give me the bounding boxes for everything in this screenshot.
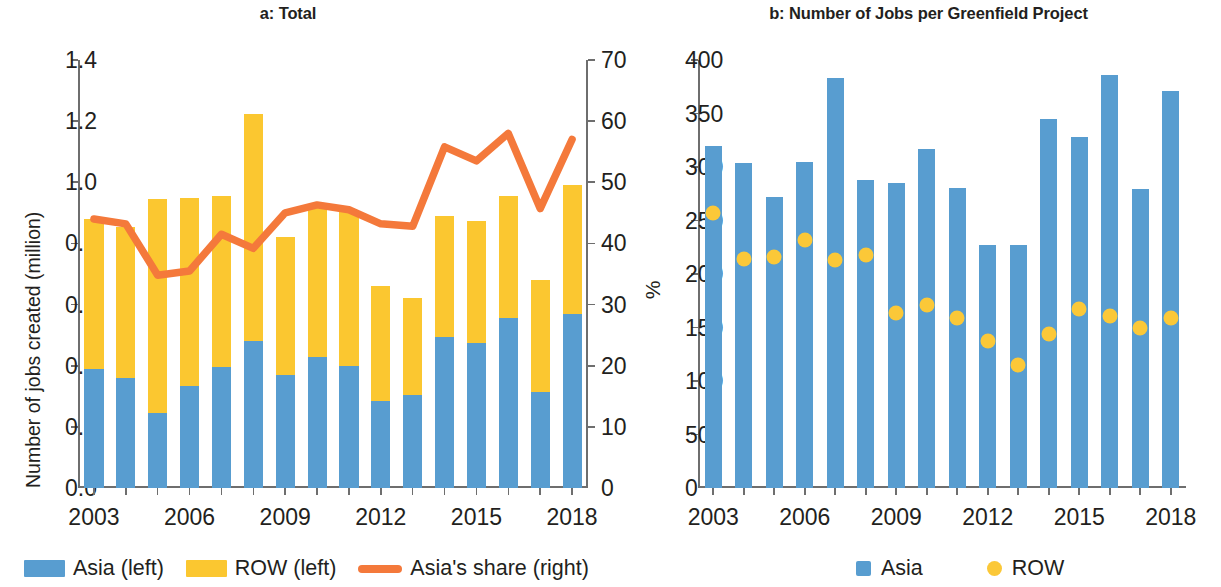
panel-a-bar-segment-row [435, 216, 454, 337]
square-swatch-icon [24, 560, 65, 577]
panel-b-legend-item: ROW [987, 556, 1065, 581]
panel-b-row-dot [767, 249, 782, 264]
square-swatch-icon [856, 561, 871, 576]
panel-a-bar-segment-row [563, 185, 582, 313]
panel-b-row-dot [1102, 308, 1117, 323]
panel-a-bar-segment-asia [499, 318, 518, 488]
panel-b-bar [979, 245, 996, 488]
panel-a-bar [148, 199, 167, 488]
panel-b-x-tick-label: 2015 [1054, 506, 1105, 529]
panel-a-bar [244, 114, 263, 489]
panel-b-x-tick [1139, 488, 1141, 495]
panel-b-y-tick-label: 350 [685, 102, 1173, 125]
panel-a-bar [435, 216, 454, 488]
panel-a-bar [499, 196, 518, 488]
panel-a-bar [467, 221, 486, 489]
panel-a-left-tick-label: 1.4 [65, 49, 575, 72]
panel-a-bar [212, 196, 231, 488]
panel-b-bar [918, 149, 935, 488]
panel-b-legend-label: ROW [1012, 556, 1065, 581]
panel-b-x-tick [865, 488, 867, 495]
panel-a-x-tick-label: 2015 [451, 506, 502, 529]
panel-a-bar-segment-row [499, 196, 518, 318]
panel-a-bar-segment-asia [276, 375, 295, 488]
panel-a-bar [308, 208, 327, 488]
panel-a-right-axis [586, 60, 588, 488]
panel-a-bar-segment-row [148, 199, 167, 413]
panel-b-row-dot [1163, 310, 1178, 325]
panel-b-bar [1132, 189, 1149, 488]
panel-a-plot-area: 0.00.20.40.60.81.01.21.40102030405060702… [78, 60, 588, 488]
square-swatch-icon [186, 560, 227, 577]
panel-b-x-tick [804, 488, 806, 495]
panel-a-x-tick-label: 2006 [164, 506, 215, 529]
panel-a-right-tick [588, 304, 595, 306]
panel-a-left-tick-label: 1.2 [65, 110, 575, 133]
panel-a-x-tick [253, 488, 255, 495]
panel-a-x-tick [508, 488, 510, 495]
panel-a-x-tick [412, 488, 414, 495]
panel-b-x-tick [773, 488, 775, 495]
panel-b-row-dot [706, 206, 721, 221]
panel-b-x-tick [743, 488, 745, 495]
panel-b-x-tick [895, 488, 897, 495]
panel-a-legend: Asia (left)ROW (left)Asia's share (right… [24, 556, 589, 581]
panel-a-legend-label: ROW (left) [235, 556, 337, 581]
panel-a-x-tick-label: 2012 [355, 506, 406, 529]
panel-b-row-dot [1011, 357, 1026, 372]
panel-b-bar [827, 78, 844, 488]
panel-a-bar-segment-asia [531, 392, 550, 488]
panel-b-row-dot [919, 298, 934, 313]
panel-a-bar-segment-asia [435, 337, 454, 488]
panel-a-right-tick [588, 59, 595, 61]
panel-a-total: a: Total Number of jobs created (million… [0, 0, 620, 587]
panel-b-x-tick-label: 2012 [962, 506, 1013, 529]
panel-b-x-tick-label: 2006 [779, 506, 830, 529]
panel-b-x-tick [834, 488, 836, 495]
panel-a-x-tick [444, 488, 446, 495]
panel-a-bar-segment-asia [403, 395, 422, 488]
panel-b-row-dot [950, 310, 965, 325]
panel-a-bar [371, 286, 390, 488]
panel-a-x-tick [476, 488, 478, 495]
panel-b-bar [888, 183, 905, 488]
panel-a-x-tick [571, 488, 573, 495]
panel-b-row-dot [797, 232, 812, 247]
panel-b-x-tick-label: 2009 [871, 506, 922, 529]
panel-a-bar-segment-asia [116, 378, 135, 488]
panel-a-bar [116, 227, 135, 488]
panel-a-bar-segment-row [403, 298, 422, 394]
panel-b-x-tick [1048, 488, 1050, 495]
panel-a-y-axis-label: Number of jobs created (million) [22, 212, 45, 488]
panel-b-row-dot [889, 305, 904, 320]
panel-b-bar [735, 163, 752, 488]
panel-a-x-tick [284, 488, 286, 495]
panel-b-bar [1101, 75, 1118, 488]
panel-a-right-tick [588, 181, 595, 183]
panel-a-bar-segment-row [531, 280, 550, 392]
panel-a-bar-segment-row [244, 114, 263, 342]
panel-b-bar [857, 180, 874, 488]
panel-b-legend: AsiaROW [856, 556, 1064, 581]
panel-b-x-tick-label: 2003 [688, 506, 739, 529]
panel-b-x-tick [956, 488, 958, 495]
panel-b-legend-label: Asia [881, 556, 923, 581]
panel-a-bar [339, 210, 358, 488]
panel-a-bar-segment-row [467, 221, 486, 343]
panel-b-x-tick [1170, 488, 1172, 495]
panel-a-x-tick-label: 2018 [546, 506, 597, 529]
panel-a-legend-item: Asia (left) [24, 556, 164, 581]
panel-b-bar [1040, 119, 1057, 488]
panel-a-right-tick [588, 365, 595, 367]
panel-b-row-dot [858, 247, 873, 262]
panel-a-bar-segment-asia [339, 366, 358, 488]
panel-a-bar-segment-row [276, 237, 295, 375]
panel-a-x-tick [539, 488, 541, 495]
panel-b-bar [796, 162, 813, 488]
panel-a-bar-segment-row [371, 286, 390, 401]
panel-b-title: b: Number of Jobs per Greenfield Project [628, 4, 1221, 23]
panel-a-bar-segment-asia [84, 369, 103, 488]
panel-a-bar [84, 219, 103, 488]
panel-b-plot-area: 0501001502002503003504002003200620092012… [698, 60, 1186, 488]
panel-a-bar-segment-asia [148, 413, 167, 488]
